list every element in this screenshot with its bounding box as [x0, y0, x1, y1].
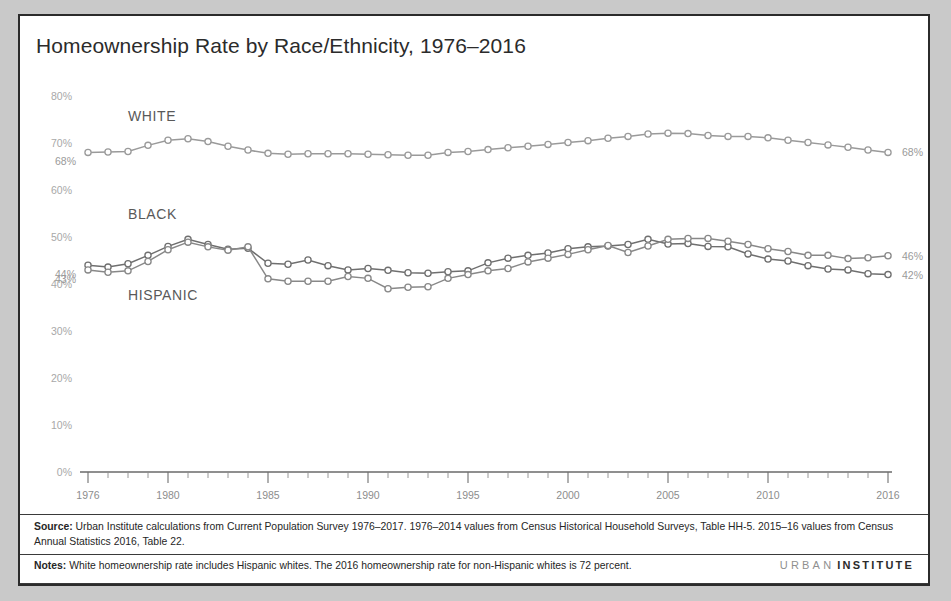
source-label: Source: [34, 521, 73, 532]
series-start-label: 43% [55, 273, 76, 285]
data-point [885, 149, 891, 155]
x-axis-tick-label: 1980 [156, 489, 180, 501]
data-point [85, 267, 91, 273]
data-point [205, 244, 211, 250]
data-point [385, 267, 391, 273]
x-axis-tick-label: 2016 [876, 489, 900, 501]
data-point [245, 244, 251, 250]
urban-institute-logo: URBAN INSTITUTE [780, 559, 914, 571]
data-point [765, 256, 771, 262]
data-point [825, 252, 831, 258]
data-point [105, 149, 111, 155]
data-point [145, 142, 151, 148]
chart-footer: Source: Urban Institute calculations fro… [20, 514, 928, 584]
data-point [385, 152, 391, 158]
data-point [325, 151, 331, 157]
data-point [645, 236, 651, 242]
data-point [745, 251, 751, 257]
data-point [765, 246, 771, 252]
data-point [465, 148, 471, 154]
y-axis-tick-label: 60% [51, 184, 72, 196]
x-axis-tick-label: 1985 [256, 489, 280, 501]
data-point [525, 252, 531, 258]
data-point [265, 276, 271, 282]
series-white [85, 130, 891, 158]
data-point [285, 278, 291, 284]
y-axis-tick-label: 70% [51, 137, 72, 149]
data-point [505, 145, 511, 151]
x-axis-tick-label: 2005 [656, 489, 680, 501]
data-point [785, 137, 791, 143]
data-point [725, 133, 731, 139]
data-point [665, 130, 671, 136]
data-point [745, 241, 751, 247]
data-point [365, 275, 371, 281]
y-axis-tick-label: 10% [51, 419, 72, 431]
data-point [865, 147, 871, 153]
data-point [785, 248, 791, 254]
series-name-label: BLACK [128, 206, 177, 222]
data-point [705, 235, 711, 241]
y-axis-tick-label: 80% [51, 90, 72, 102]
data-point [225, 143, 231, 149]
data-point [445, 149, 451, 155]
data-point [485, 268, 491, 274]
data-point [145, 252, 151, 258]
logo-institute: INSTITUTE [837, 559, 914, 571]
data-point [405, 284, 411, 290]
data-point [525, 259, 531, 265]
data-point [445, 269, 451, 275]
y-axis-tick-label: 20% [51, 372, 72, 384]
data-point [125, 268, 131, 274]
series-name-label: HISPANIC [128, 287, 198, 303]
data-point [565, 251, 571, 257]
data-point [645, 243, 651, 249]
data-point [545, 255, 551, 261]
data-point [185, 136, 191, 142]
data-point [545, 141, 551, 147]
data-point [145, 258, 151, 264]
data-point [565, 139, 571, 145]
x-axis-tick-label: 2000 [556, 489, 580, 501]
data-point [745, 133, 751, 139]
data-point [845, 256, 851, 262]
data-point [525, 143, 531, 149]
data-point [825, 266, 831, 272]
notes-text: White homeownership rate includes Hispan… [66, 560, 631, 571]
data-point [85, 149, 91, 155]
data-point [185, 239, 191, 245]
data-point [425, 284, 431, 290]
x-axis-tick-label: 2010 [756, 489, 780, 501]
data-point [425, 270, 431, 276]
data-point [685, 131, 691, 137]
data-point [125, 261, 131, 267]
data-point [485, 146, 491, 152]
y-axis-tick-label: 50% [51, 231, 72, 243]
data-point [705, 132, 711, 138]
data-point [585, 138, 591, 144]
series-end-label: 42% [902, 269, 923, 281]
data-point [885, 253, 891, 259]
data-point [245, 147, 251, 153]
data-point [125, 148, 131, 154]
data-point [865, 271, 871, 277]
data-point [225, 247, 231, 253]
data-point [845, 144, 851, 150]
data-point [625, 133, 631, 139]
data-point [285, 151, 291, 157]
data-point [465, 272, 471, 278]
data-point [805, 139, 811, 145]
data-point [205, 138, 211, 144]
data-point [625, 249, 631, 255]
data-point [805, 252, 811, 258]
x-axis-tick-label: 1990 [356, 489, 380, 501]
data-point [605, 135, 611, 141]
data-point [345, 151, 351, 157]
source-text: Urban Institute calculations from Curren… [34, 521, 893, 547]
y-axis-tick-label: 0% [57, 466, 72, 478]
data-point [845, 267, 851, 273]
line-chart-svg: 0%10%20%30%40%50%60%70%80%19761980198519… [20, 82, 928, 512]
page-title: Homeownership Rate by Race/Ethnicity, 19… [36, 34, 526, 58]
data-point [345, 267, 351, 273]
data-point [665, 236, 671, 242]
